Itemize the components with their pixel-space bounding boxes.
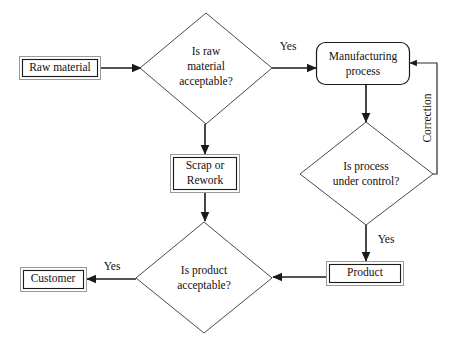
node-raw-material-label: Raw material	[29, 61, 91, 73]
node-decision-is-process-under-control[interactable]: Is process under control?	[300, 122, 433, 225]
node-decision2-label-line1: Is process	[343, 160, 389, 173]
node-customer-label: Customer	[31, 272, 76, 284]
node-customer[interactable]: Customer	[21, 268, 87, 292]
node-product-label: Product	[347, 266, 384, 278]
node-decision1-label-line1: Is raw	[192, 45, 221, 57]
node-decision1-label-line3: acceptable?	[179, 75, 233, 88]
node-manufacturing-process-label-line2: process	[346, 65, 381, 78]
flowchart-canvas: Raw material Is raw material acceptable?…	[0, 0, 459, 348]
node-raw-material[interactable]: Raw material	[20, 57, 101, 80]
node-decision-is-product-acceptable[interactable]: Is product acceptable?	[136, 222, 272, 333]
node-decision-is-raw-material-acceptable[interactable]: Is raw material acceptable?	[140, 13, 272, 124]
flowchart-svg: Raw material Is raw material acceptable?…	[0, 0, 459, 348]
edge-label-correction: Correction	[421, 93, 433, 142]
node-decision1-label-line2: material	[187, 60, 225, 72]
edge-label-decision2-yes: Yes	[378, 233, 395, 245]
node-product[interactable]: Product	[327, 262, 404, 286]
node-decision2-label-line2: under control?	[333, 175, 400, 187]
node-scrap-or-rework[interactable]: Scrap or Rework	[171, 155, 240, 193]
node-decision3-label-line2: acceptable?	[177, 279, 231, 292]
edge-label-decision1-yes: Yes	[280, 40, 297, 52]
node-decision3-label-line1: Is product	[181, 264, 228, 277]
node-manufacturing-process[interactable]: Manufacturing process	[317, 43, 410, 85]
node-manufacturing-process-label-line1: Manufacturing	[329, 50, 398, 63]
node-scrap-or-rework-label-line2: Rework	[187, 174, 224, 186]
node-scrap-or-rework-label-line1: Scrap or	[186, 159, 225, 172]
edge-label-decision3-yes: Yes	[104, 260, 121, 272]
